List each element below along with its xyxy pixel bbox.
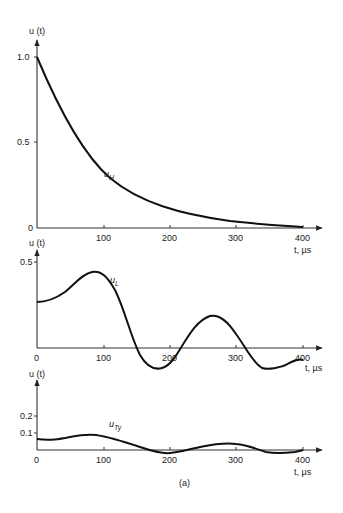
top-ytick-label-05: 0.5 bbox=[17, 137, 30, 147]
curve-label-u-H: uH bbox=[104, 169, 115, 181]
curve-label-u-Ty: uTy bbox=[109, 419, 122, 432]
plot-middle: u (t) 0.5 0 100 200 300 400 t, µs uL bbox=[20, 238, 323, 373]
bottom-xtick-label-100: 100 bbox=[96, 455, 111, 465]
middle-y-label: u (t) bbox=[29, 238, 45, 248]
top-ytick-label-1: 1.0 bbox=[17, 52, 30, 62]
middle-xtick-label-100: 100 bbox=[96, 353, 111, 363]
bottom-ytick-label-02: 0.2 bbox=[20, 411, 33, 421]
top-ytick-label-0: 0 bbox=[28, 223, 33, 233]
top-x-label: t, µs bbox=[294, 245, 312, 255]
plot-top: u (t) 1.0 0.5 0 100 200 300 400 t, µs uH bbox=[17, 26, 322, 255]
figure-caption: (a) bbox=[179, 478, 190, 488]
bottom-xtick-label-400: 400 bbox=[295, 455, 310, 465]
top-y-label: u (t) bbox=[29, 26, 45, 36]
bottom-xtick-label-300: 300 bbox=[228, 455, 243, 465]
bottom-xtick-label-0: 0 bbox=[34, 455, 39, 465]
middle-x-label: t, µs bbox=[305, 363, 323, 373]
top-xtick-label-100: 100 bbox=[96, 233, 111, 243]
middle-xtick-label-0: 0 bbox=[34, 353, 39, 363]
middle-xtick-label-400: 400 bbox=[295, 353, 310, 363]
middle-ytick-label-05: 0.5 bbox=[20, 257, 33, 267]
middle-xtick-label-300: 300 bbox=[228, 353, 243, 363]
top-xtick-label-200: 200 bbox=[162, 233, 177, 243]
bottom-xtick-label-200: 200 bbox=[162, 455, 177, 465]
top-xtick-label-400: 400 bbox=[295, 233, 310, 243]
bottom-x-label: t, µs bbox=[294, 467, 312, 477]
bottom-ytick-label-01: 0.1 bbox=[20, 428, 33, 438]
plot-bottom: u (t) 0.2 0.1 0 100 200 300 400 t, µs uT… bbox=[20, 369, 322, 477]
bottom-y-label: u (t) bbox=[29, 369, 45, 379]
curve-u-H bbox=[37, 57, 303, 227]
top-xtick-label-300: 300 bbox=[228, 233, 243, 243]
figure-canvas: u (t) 1.0 0.5 0 100 200 300 400 t, µs uH… bbox=[0, 0, 343, 513]
